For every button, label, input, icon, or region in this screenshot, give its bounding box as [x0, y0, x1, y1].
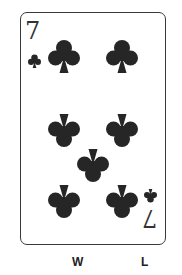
club-icon	[106, 39, 138, 75]
label-right: L	[141, 255, 148, 269]
club-icon	[48, 183, 80, 219]
playing-card: 7 7	[20, 12, 166, 245]
label-left: W	[72, 255, 83, 269]
club-icon	[77, 147, 109, 183]
club-icon	[144, 188, 157, 203]
club-icon	[28, 54, 41, 69]
rank-bottom-right: 7	[142, 206, 157, 230]
club-icon	[48, 112, 80, 148]
club-icon	[48, 39, 80, 75]
club-icon	[106, 183, 138, 219]
club-icon	[106, 112, 138, 148]
rank-top-left: 7	[25, 19, 40, 43]
